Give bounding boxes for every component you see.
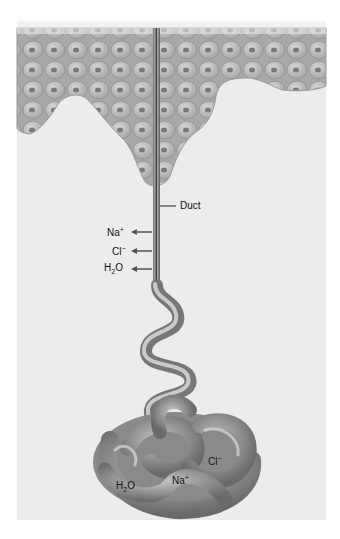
cl-arrow-icon [131,248,152,254]
duct-na-label: Na+ [107,226,124,238]
coil-h2o-o-text: O [127,480,135,491]
na-arrow-icon [131,229,152,235]
epidermis-cell-layer [17,22,326,186]
duct-label: Duct [180,201,201,211]
h2o-arrow-icon [131,266,152,272]
coiled-secretory-portion [93,402,257,512]
duct [153,28,160,288]
coil-na-charge: + [185,474,189,481]
cl-charge: − [121,245,125,252]
coil-cl-label: Cl− [208,455,222,467]
duct-h2o-label: H2O [104,263,123,275]
h2o-o-text: O [115,262,123,273]
na-charge: + [120,226,124,233]
duct-label-text: Duct [180,200,201,211]
coil-na-label: Na+ [172,474,189,486]
coil-h2o-label: H2O [116,481,135,493]
na-text: Na [107,227,120,238]
coil-cl-charge: − [217,455,221,462]
coil-na-text: Na [172,475,185,486]
duct-cl-label: Cl− [112,245,126,257]
sweat-gland-illustration [0,0,340,539]
